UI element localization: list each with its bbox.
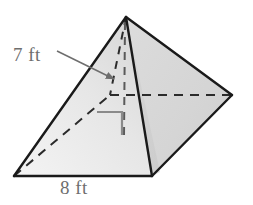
- pyramid-drawing: [0, 0, 253, 205]
- pyramid-figure: 7 ft 8 ft: [0, 0, 253, 205]
- slant-height-label: 7 ft: [13, 44, 41, 66]
- base-edge-label: 8 ft: [60, 177, 88, 199]
